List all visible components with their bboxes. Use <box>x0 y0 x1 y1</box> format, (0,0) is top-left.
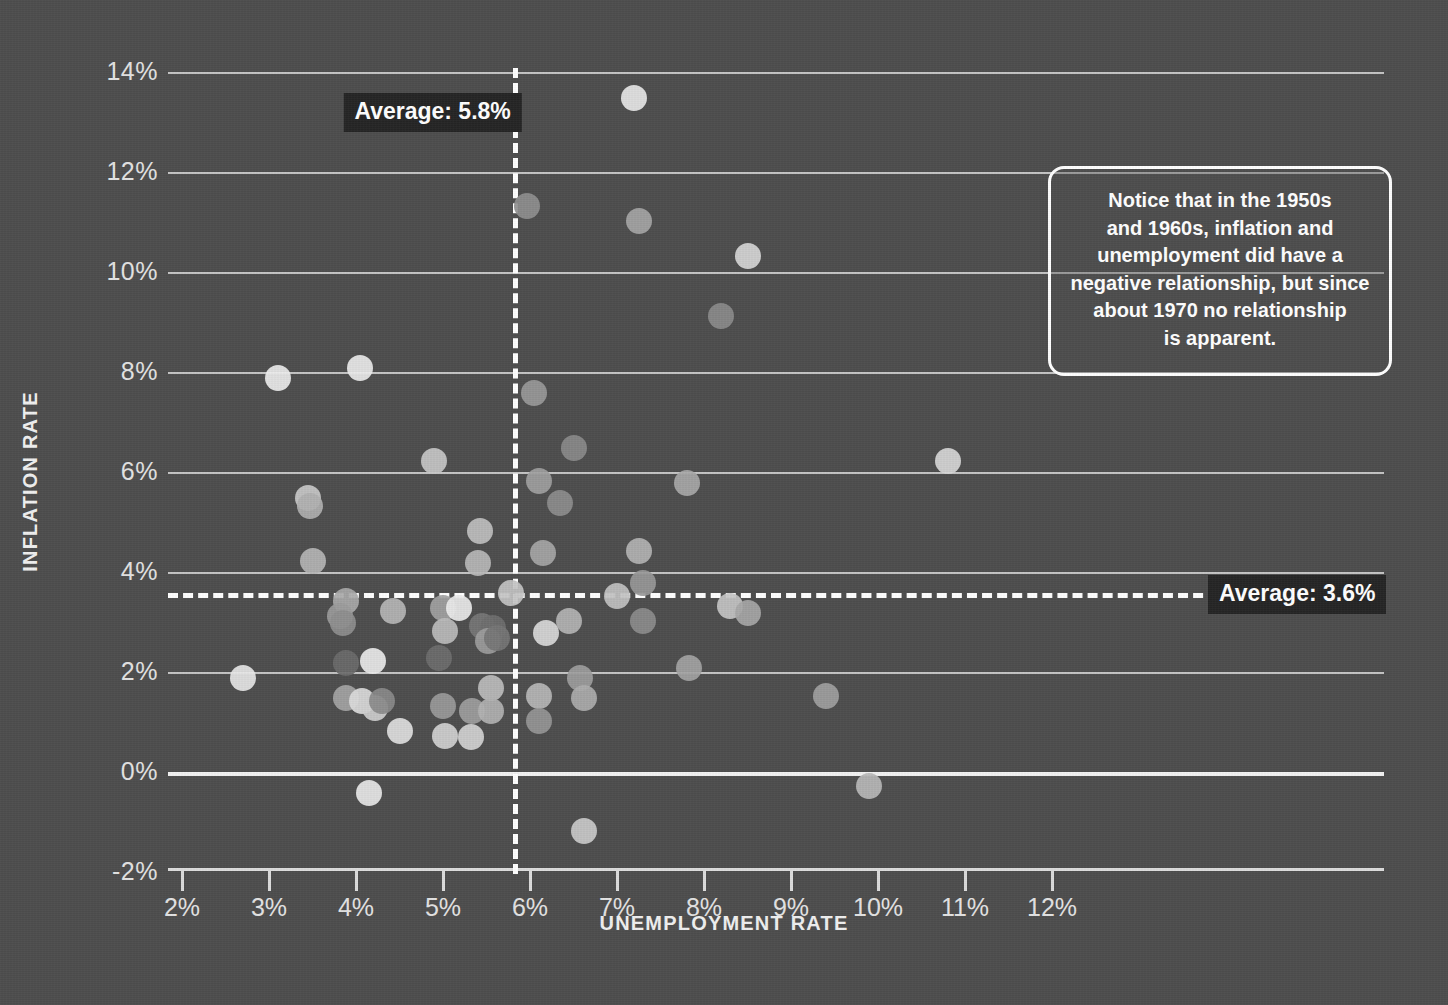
x-axis-tick <box>964 871 967 891</box>
scatter-point <box>330 610 356 636</box>
scatter-point <box>547 490 573 516</box>
scatter-point <box>813 683 839 709</box>
scatter-point <box>430 693 456 719</box>
y-tick-label: 12% <box>106 157 158 186</box>
scatter-point <box>526 683 552 709</box>
scatter-point <box>561 435 587 461</box>
scatter-point <box>297 493 323 519</box>
scatter-point <box>369 688 395 714</box>
scatter-point <box>432 618 458 644</box>
y-tick-label: 10% <box>106 257 158 286</box>
scatter-point <box>347 355 373 381</box>
scatter-point <box>360 648 386 674</box>
scatter-point <box>387 718 413 744</box>
y-tick-label: 0% <box>121 757 158 786</box>
x-axis-tick <box>790 871 793 891</box>
average-unemployment-line <box>513 68 518 874</box>
scatter-point <box>630 608 656 634</box>
scatter-point <box>626 538 652 564</box>
y-gridline <box>168 72 1384 74</box>
scatter-point <box>571 685 597 711</box>
scatter-point <box>735 243 761 269</box>
y-tick-label: 6% <box>121 457 158 486</box>
scatter-point <box>530 540 556 566</box>
scatter-point <box>735 600 761 626</box>
scatter-point <box>630 570 656 596</box>
scatter-point <box>571 818 597 844</box>
chart-canvas: -2%0%2%4%6%8%10%12%14%2%3%4%5%6%7%8%9%10… <box>0 0 1448 1005</box>
annotation-line: about 1970 no relationship <box>1067 297 1373 325</box>
plot-area: -2%0%2%4%6%8%10%12%14%2%3%4%5%6%7%8%9%10… <box>0 0 1448 1005</box>
scatter-point <box>333 650 359 676</box>
annotation-callout: Notice that in the 1950sand 1960s, infla… <box>1048 166 1392 376</box>
x-axis-tick <box>355 871 358 891</box>
annotation-line: and 1960s, inflation and <box>1067 215 1373 243</box>
annotation-line: unemployment did have a <box>1067 242 1373 270</box>
scatter-point <box>478 698 504 724</box>
y-tick-label: 8% <box>121 357 158 386</box>
scatter-point <box>498 580 524 606</box>
scatter-point <box>265 365 291 391</box>
annotation-line: negative relationship, but since <box>1067 270 1373 298</box>
scatter-point <box>533 620 559 646</box>
y-tick-label: 14% <box>106 57 158 86</box>
x-axis-tick <box>442 871 445 891</box>
scatter-point <box>526 468 552 494</box>
scatter-point <box>708 303 734 329</box>
scatter-point <box>421 448 447 474</box>
scatter-point <box>426 645 452 671</box>
scatter-point <box>446 595 472 621</box>
scatter-point <box>626 208 652 234</box>
scatter-point <box>467 518 493 544</box>
x-axis-tick <box>268 871 271 891</box>
scatter-point <box>521 380 547 406</box>
scatter-point <box>380 598 406 624</box>
scatter-point <box>856 773 882 799</box>
x-axis-title: UNEMPLOYMENT RATE <box>0 912 1448 935</box>
x-axis-tick <box>616 871 619 891</box>
y-tick-label: -2% <box>112 857 158 886</box>
x-axis-tick <box>877 871 880 891</box>
y-axis-title: INFLATION RATE <box>19 372 42 592</box>
x-axis-tick <box>529 871 532 891</box>
y-tick-label: 2% <box>121 657 158 686</box>
y-gridline <box>168 772 1384 776</box>
scatter-point <box>526 708 552 734</box>
annotation-line: Notice that in the 1950s <box>1067 187 1373 215</box>
scatter-point <box>300 548 326 574</box>
average-unemployment-label: Average: 5.8% <box>343 93 521 132</box>
scatter-point <box>674 470 700 496</box>
y-gridline <box>168 472 1384 474</box>
annotation-line: is apparent. <box>1067 325 1373 353</box>
scatter-point <box>935 448 961 474</box>
scatter-point <box>356 780 382 806</box>
scatter-point <box>230 665 256 691</box>
scatter-point <box>556 608 582 634</box>
x-axis-tick <box>181 871 184 891</box>
scatter-point <box>676 655 702 681</box>
scatter-point <box>465 550 491 576</box>
y-gridline <box>168 572 1384 574</box>
scatter-point <box>458 724 484 750</box>
x-axis-line <box>168 868 1384 871</box>
x-axis-tick <box>1051 871 1054 891</box>
scatter-point <box>484 625 510 651</box>
x-axis-tick <box>703 871 706 891</box>
y-tick-label: 4% <box>121 557 158 586</box>
average-inflation-label: Average: 3.6% <box>1208 575 1386 614</box>
scatter-point <box>621 85 647 111</box>
scatter-point <box>514 193 540 219</box>
scatter-point <box>604 583 630 609</box>
scatter-point <box>432 723 458 749</box>
